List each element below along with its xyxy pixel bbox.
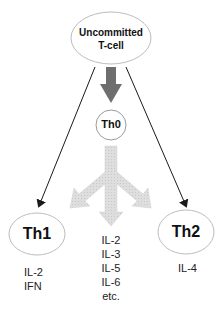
cytokine-item: IL-2 <box>24 265 43 279</box>
arrow-to-th2-icon <box>126 67 186 206</box>
cytokine-item: IL-2 <box>98 233 124 247</box>
cytokine-item: etc. <box>98 289 124 303</box>
th2-label: Th2 <box>158 223 214 241</box>
th1-label: Th1 <box>9 225 65 243</box>
th2-cytokine-list: IL-4 <box>178 261 197 275</box>
cytokine-item: IL-4 <box>178 261 197 275</box>
th1-cytokine-list: IL-2 IFN <box>24 265 43 293</box>
uncommitted-label: Uncommitted T-cell <box>71 26 151 52</box>
cytokine-item: IL-6 <box>98 275 124 289</box>
th0-label: Th0 <box>96 118 126 130</box>
cytokine-item: IFN <box>24 279 43 293</box>
uncommitted-line1: Uncommitted <box>71 26 151 39</box>
branching-arrow-icon <box>70 146 151 226</box>
cytokine-item: IL-3 <box>98 247 124 261</box>
uncommitted-line2: T-cell <box>71 39 151 52</box>
th0-cytokine-list: IL-2 IL-3 IL-5 IL-6 etc. <box>98 233 124 303</box>
arrow-to-th1-icon <box>39 67 95 206</box>
differentiation-arrow-icon <box>100 67 122 103</box>
cytokine-item: IL-5 <box>98 261 124 275</box>
